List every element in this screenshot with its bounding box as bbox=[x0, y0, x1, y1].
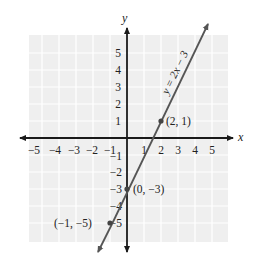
coordinate-plane: x y −5 −4 −3 −2 −1 1 2 3 4 5 5 4 3 2 1 −… bbox=[0, 0, 268, 267]
svg-text:−4: −4 bbox=[49, 144, 61, 156]
svg-text:−5: −5 bbox=[28, 144, 40, 156]
svg-text:4: 4 bbox=[115, 64, 121, 76]
point-neg1-neg5 bbox=[107, 220, 112, 225]
svg-text:2: 2 bbox=[158, 144, 164, 156]
svg-text:4: 4 bbox=[192, 144, 198, 156]
point-0-neg3 bbox=[124, 186, 129, 191]
point-label-neg1-neg5: (−1, −5) bbox=[54, 217, 92, 230]
svg-text:1: 1 bbox=[115, 115, 121, 127]
svg-text:5: 5 bbox=[115, 47, 121, 59]
svg-text:3: 3 bbox=[175, 144, 181, 156]
svg-text:−2: −2 bbox=[86, 144, 98, 156]
point-label-0-neg3: (0, −3) bbox=[133, 183, 165, 196]
svg-text:−3: −3 bbox=[110, 183, 122, 195]
point-label-2-1: (2, 1) bbox=[166, 115, 191, 128]
svg-text:2: 2 bbox=[115, 98, 121, 110]
svg-text:−2: −2 bbox=[110, 166, 122, 178]
svg-text:3: 3 bbox=[115, 81, 121, 93]
svg-text:5: 5 bbox=[209, 144, 215, 156]
x-axis-label: x bbox=[237, 130, 244, 144]
y-axis-label: y bbox=[121, 11, 128, 25]
svg-text:−3: −3 bbox=[68, 144, 80, 156]
point-2-1 bbox=[158, 118, 163, 123]
svg-text:−1: −1 bbox=[110, 150, 122, 162]
